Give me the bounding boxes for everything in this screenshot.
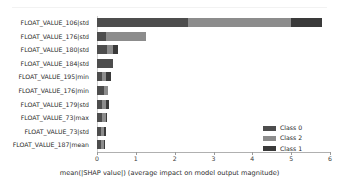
top-divider <box>12 7 327 8</box>
stacked-bar[interactable] <box>97 18 322 27</box>
bar-row <box>97 43 330 57</box>
stacked-bar[interactable] <box>97 100 109 109</box>
stacked-bar[interactable] <box>97 32 146 41</box>
x-axis-tick-label: 0 <box>95 155 99 162</box>
stacked-bar[interactable] <box>97 72 111 81</box>
y-axis-label: FLOAT_VALUE_184|std <box>21 57 89 71</box>
bar-row <box>97 70 330 84</box>
legend-item[interactable]: Class 1 <box>263 145 302 153</box>
bar-segment <box>106 100 108 109</box>
x-axis-title: mean(|SHAP value|) (average impact on mo… <box>0 169 339 177</box>
x-axis-tick-label: 3 <box>212 155 216 162</box>
bar-segment <box>291 18 322 27</box>
y-axis-label: FLOAT_VALUE_73|std <box>25 125 89 139</box>
y-axis-label: FLOAT_VALUE_73|max <box>21 111 89 125</box>
x-axis-tick-label: 5 <box>289 155 293 162</box>
bar-segment <box>113 45 119 54</box>
stacked-bar[interactable] <box>97 140 104 149</box>
bar-row <box>97 16 330 30</box>
bar-segment <box>106 32 146 41</box>
x-axis-tick-label: 6 <box>328 155 332 162</box>
legend-label: Class 1 <box>280 145 302 153</box>
bar-segment <box>97 45 107 54</box>
stacked-bar[interactable] <box>97 86 108 95</box>
x-axis-tick-label: 1 <box>134 155 138 162</box>
stacked-bar[interactable] <box>97 45 118 54</box>
y-axis-label: FLOAT_VALUE_195|min <box>19 70 89 84</box>
y-axis-label: FLOAT_VALUE_187|mean <box>13 138 89 152</box>
y-axis-labels: FLOAT_VALUE_106|stdFLOAT_VALUE_176|stdFL… <box>0 16 93 152</box>
bar-segment <box>97 86 104 95</box>
stacked-bar[interactable] <box>97 59 113 68</box>
bar-segment <box>106 113 108 122</box>
bar-row <box>97 98 330 112</box>
legend: Class 0Class 2Class 1 <box>263 124 302 153</box>
legend-item[interactable]: Class 2 <box>263 134 302 142</box>
stacked-bar[interactable] <box>97 127 106 136</box>
y-axis-label: FLOAT_VALUE_180|std <box>21 43 89 57</box>
stacked-bar[interactable] <box>97 113 107 122</box>
bar-segment <box>106 72 110 81</box>
bar-segment <box>188 18 291 27</box>
bar-segment <box>97 59 113 68</box>
legend-label: Class 0 <box>280 124 302 132</box>
bar-row <box>97 57 330 71</box>
y-axis-label: FLOAT_VALUE_179|std <box>21 98 89 112</box>
legend-swatch-icon <box>263 126 276 131</box>
legend-label: Class 2 <box>280 134 302 142</box>
y-axis-label: FLOAT_VALUE_176|min <box>19 84 89 98</box>
bar-row <box>97 111 330 125</box>
y-axis-label: FLOAT_VALUE_106|std <box>21 16 89 30</box>
legend-item[interactable]: Class 0 <box>263 124 302 132</box>
bar-segment <box>104 140 105 149</box>
bar-segment <box>104 86 108 95</box>
y-axis-label: FLOAT_VALUE_176|std <box>21 30 89 44</box>
x-axis-tick-label: 4 <box>250 155 254 162</box>
bar-segment <box>97 18 188 27</box>
x-axis-tick-label: 2 <box>173 155 177 162</box>
legend-swatch-icon <box>263 146 276 151</box>
shap-summary-bar-chart: FLOAT_VALUE_106|stdFLOAT_VALUE_176|stdFL… <box>0 0 339 183</box>
bar-segment <box>97 32 106 41</box>
bar-segment <box>104 127 105 136</box>
legend-swatch-icon <box>263 136 276 141</box>
bar-row <box>97 30 330 44</box>
bar-row <box>97 84 330 98</box>
